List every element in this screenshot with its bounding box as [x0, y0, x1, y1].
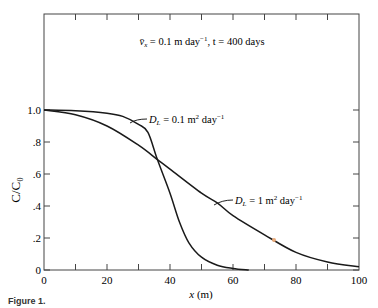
svg-text:0: 0 [41, 274, 47, 286]
svg-text:.6: .6 [33, 168, 42, 180]
plot-frame [44, 14, 359, 270]
svg-text:.2: .2 [33, 232, 41, 244]
y-axis-label: C/C₀ [8, 177, 23, 203]
svg-text:80: 80 [291, 274, 303, 286]
svg-text:20: 20 [102, 274, 114, 286]
chart: 0204060801000.2.4.6.81.0 v̄x = 0.1 m day… [0, 0, 378, 308]
curve-series-1 [44, 110, 359, 267]
svg-text:.4: .4 [33, 200, 42, 212]
svg-text:0: 0 [36, 264, 42, 276]
curves [44, 110, 359, 270]
axis-ticks [44, 14, 359, 270]
figure-caption: Figure 1. [8, 296, 46, 306]
label-dl-01: DL = 0.1 m2 day−1 [148, 113, 225, 127]
svg-text:60: 60 [228, 274, 240, 286]
svg-text:100: 100 [351, 274, 368, 286]
stray-mark [272, 238, 276, 242]
svg-text:1.0: 1.0 [27, 104, 41, 116]
curve-series-0 [44, 110, 249, 270]
svg-text:.8: .8 [33, 136, 42, 148]
label-dl-1: DL = 1 m2 day−1 [234, 194, 303, 208]
chart-title: v̄x = 0.1 m day−1, t = 400 days [139, 35, 264, 49]
x-axis-label: x (m) [188, 288, 213, 301]
svg-text:40: 40 [165, 274, 177, 286]
